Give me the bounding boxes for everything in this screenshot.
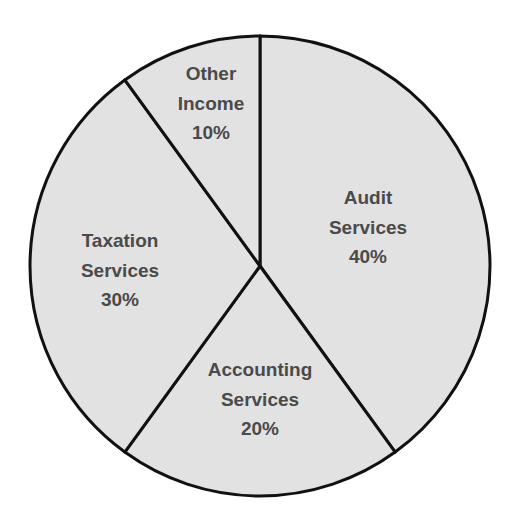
- label-line: Other: [186, 63, 237, 84]
- label-line: Income: [178, 93, 245, 114]
- label-line: Taxation: [82, 230, 159, 251]
- pie-chart: AuditServices40%AccountingServices20%Tax…: [0, 0, 515, 530]
- label-line: Audit: [344, 187, 393, 208]
- label-line: Accounting: [208, 359, 313, 380]
- label-line: Services: [221, 389, 299, 410]
- label-line: Services: [81, 260, 159, 281]
- label-line: 40%: [349, 246, 387, 267]
- label-line: 10%: [192, 122, 230, 143]
- label-line: Services: [329, 217, 407, 238]
- label-line: 30%: [101, 289, 139, 310]
- label-line: 20%: [241, 418, 279, 439]
